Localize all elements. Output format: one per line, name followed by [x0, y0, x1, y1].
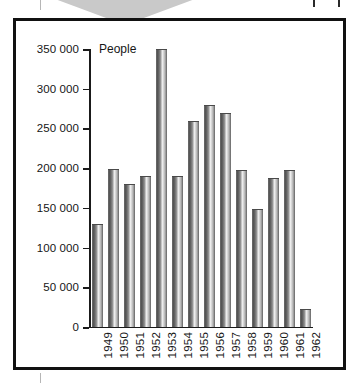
- chart-figure-frame: People 050 000100 000150 000200 000250 0…: [13, 18, 346, 370]
- bar-1959: [252, 209, 263, 327]
- bar-series: [89, 49, 313, 327]
- margin-rule-bottom: [40, 373, 41, 383]
- x-axis-tick-label: 1952: [150, 332, 162, 358]
- bar-1953: [156, 49, 167, 327]
- y-axis-tick-label: 250 000: [37, 122, 79, 134]
- bar-1952: [140, 176, 151, 327]
- y-axis-tick-label: 0: [73, 321, 80, 333]
- x-axis-tick-label: 1954: [182, 332, 194, 358]
- bar-1956: [204, 105, 215, 327]
- y-axis-tick-label: 100 000: [37, 242, 79, 254]
- plot-area: People 050 000100 000150 000200 000250 0…: [16, 21, 343, 367]
- bar-1949: [92, 224, 103, 327]
- x-axis-tick-label: 1951: [134, 332, 146, 358]
- margin-rule-top: [40, 0, 41, 10]
- bar-1962: [300, 309, 311, 327]
- x-axis-tick-label: 1960: [278, 332, 290, 358]
- y-axis-tick-label: 150 000: [37, 202, 79, 214]
- x-axis-tick-label: 1950: [118, 332, 130, 358]
- page-tick-mark-left: [313, 0, 315, 7]
- bar-1960: [268, 178, 279, 327]
- x-axis-tick-label: 1956: [214, 332, 226, 358]
- bar-1954: [172, 176, 183, 327]
- y-axis-tick-label: 200 000: [37, 162, 79, 174]
- y-axis-tick: [83, 327, 89, 329]
- bar-1950: [108, 169, 119, 327]
- bar-1957: [220, 113, 231, 327]
- y-axis-tick-label: 300 000: [37, 83, 79, 95]
- x-axis-tick-label: 1957: [230, 332, 242, 358]
- x-axis-tick-label: 1959: [262, 332, 274, 358]
- bar-1955: [188, 121, 199, 327]
- x-axis-tick-label: 1962: [310, 332, 322, 358]
- x-axis-tick-label: 1961: [294, 332, 306, 358]
- x-axis-tick-label: 1955: [198, 332, 210, 358]
- page-tick-mark-right: [338, 0, 340, 7]
- y-axis-tick-label: 50 000: [43, 281, 79, 293]
- bar-1958: [236, 170, 247, 327]
- y-axis-tick-label: 350 000: [37, 43, 79, 55]
- x-axis-tick-label: 1953: [166, 332, 178, 358]
- bar-1961: [284, 170, 295, 327]
- bar-1951: [124, 184, 135, 327]
- x-axis-tick-label: 1958: [246, 332, 258, 358]
- x-axis-tick-label: 1949: [102, 332, 114, 358]
